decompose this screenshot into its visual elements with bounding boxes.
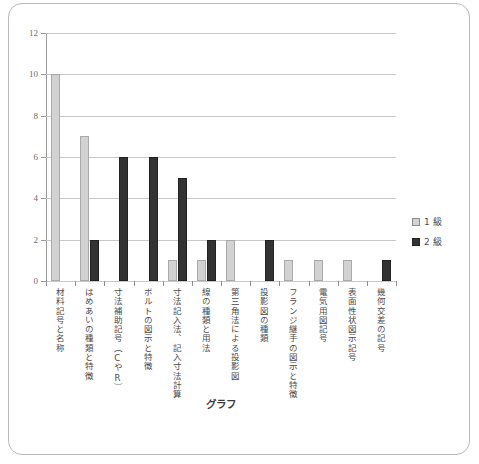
legend-item-series-2[interactable]: 2 級 bbox=[412, 236, 462, 247]
bar bbox=[207, 240, 216, 281]
chart-title: グラフ bbox=[46, 396, 396, 411]
y-axis-tick-mark bbox=[41, 116, 46, 117]
x-axis-tick-mark bbox=[134, 281, 135, 286]
x-axis-tick-mark bbox=[192, 281, 193, 286]
bar bbox=[119, 157, 128, 281]
bar bbox=[149, 157, 158, 281]
x-axis-tick-mark bbox=[279, 281, 280, 286]
x-axis-category-label: 幾何交差の記号 bbox=[372, 288, 385, 353]
x-axis-tick-mark bbox=[75, 281, 76, 286]
x-axis-category-label: ボルトの図示と特徴 bbox=[139, 288, 152, 372]
bar bbox=[80, 136, 89, 281]
legend-label-series-1: 1 級 bbox=[424, 215, 442, 228]
bar bbox=[197, 260, 206, 281]
chart-legend: 1 級 2 級 bbox=[412, 216, 462, 256]
bar bbox=[284, 260, 293, 281]
x-axis-tick-mark bbox=[104, 281, 105, 286]
x-axis-category-label: 寸法記入法、記入寸法計算 bbox=[168, 288, 181, 400]
bar bbox=[265, 240, 274, 281]
y-axis-tick-label: 8 bbox=[12, 112, 38, 121]
bar bbox=[226, 240, 235, 281]
bar bbox=[178, 178, 187, 281]
bar bbox=[382, 260, 391, 281]
plot-area bbox=[46, 33, 396, 281]
y-axis-tick-mark bbox=[41, 281, 46, 282]
x-axis-tick-mark bbox=[367, 281, 368, 286]
x-axis-category-label: 材料記号と名称 bbox=[51, 288, 64, 353]
gridline bbox=[46, 157, 396, 158]
gridline bbox=[46, 198, 396, 199]
y-axis-tick-mark bbox=[41, 157, 46, 158]
legend-label-series-2: 2 級 bbox=[424, 235, 442, 248]
bar bbox=[343, 260, 352, 281]
bar bbox=[168, 260, 177, 281]
y-axis-tick-label: 10 bbox=[12, 70, 38, 79]
y-axis-labels: 121086420 bbox=[8, 0, 38, 464]
y-axis-tick-label: 2 bbox=[12, 236, 38, 245]
bar bbox=[314, 260, 323, 281]
bar-chart: 121086420 材料記号と名称はめあいの種類と特徴寸法補助記号（CやR）ボル… bbox=[0, 0, 479, 464]
y-axis-tick-mark bbox=[41, 74, 46, 75]
x-axis-category-label: 第三角法による投影図 bbox=[226, 288, 239, 381]
x-axis-tick-mark bbox=[163, 281, 164, 286]
x-axis-category-label: 線の種類と用法 bbox=[197, 288, 210, 353]
x-axis-tick-mark bbox=[221, 281, 222, 286]
x-axis-category-label: 投影図の種類 bbox=[255, 288, 268, 344]
y-axis-tick-label: 12 bbox=[12, 29, 38, 38]
x-axis-category-label: はめあいの種類と特徴 bbox=[80, 288, 93, 381]
y-axis-tick-mark bbox=[41, 33, 46, 34]
bar bbox=[90, 240, 99, 281]
y-axis-tick-mark bbox=[41, 198, 46, 199]
x-axis-tick-mark bbox=[250, 281, 251, 286]
legend-swatch-icon-series-1 bbox=[412, 218, 420, 226]
y-axis-tick-label: 4 bbox=[12, 194, 38, 203]
y-axis-tick-mark bbox=[41, 240, 46, 241]
gridline bbox=[46, 33, 396, 34]
y-axis-tick-label: 0 bbox=[12, 277, 38, 286]
gridline bbox=[46, 116, 396, 117]
x-axis-category-label: 表面性状図示記号 bbox=[343, 288, 356, 362]
legend-swatch-icon-series-2 bbox=[412, 238, 420, 246]
gridline bbox=[46, 74, 396, 75]
x-axis-category-label: 寸法補助記号（CやR） bbox=[109, 288, 122, 392]
legend-item-series-1[interactable]: 1 級 bbox=[412, 216, 462, 227]
x-axis-tick-mark bbox=[338, 281, 339, 286]
x-axis-tick-mark bbox=[309, 281, 310, 286]
x-axis-category-label: フランジ継手の図示と特徴 bbox=[284, 288, 297, 400]
x-axis-tick-mark bbox=[46, 281, 47, 286]
bar bbox=[51, 74, 60, 281]
x-axis-category-label: 電気用図記号 bbox=[314, 288, 327, 344]
y-axis-tick-label: 6 bbox=[12, 153, 38, 162]
x-axis-tick-mark bbox=[396, 281, 397, 286]
